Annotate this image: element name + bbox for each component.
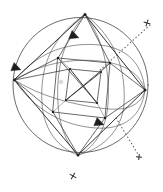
vertex-dot <box>13 79 16 82</box>
parallel-lower <box>15 80 146 109</box>
vertex-dot <box>57 57 59 59</box>
chord-se-core <box>97 103 105 118</box>
dotted-axis-upper <box>100 25 150 70</box>
interior-dot <box>59 80 63 84</box>
vertex-dot <box>69 68 71 70</box>
vertex-dot <box>104 117 106 119</box>
chord-ne-sw-long <box>66 63 110 100</box>
chord-nw-se-long <box>58 58 97 103</box>
figure-root: Spherical geometric construction <box>0 0 163 192</box>
outer-circle <box>13 18 148 153</box>
arrow-marker-upper-icon <box>69 31 81 42</box>
vertex-dot <box>77 154 80 157</box>
chord-sw-core <box>53 100 66 112</box>
chord-top-ne <box>85 15 110 64</box>
cross-mark-bottom-right-icon <box>136 154 143 161</box>
chord-right-se <box>105 90 145 118</box>
chord-left-sw <box>15 80 54 112</box>
vertex-dot <box>84 13 87 16</box>
chord-left-core-nw <box>15 69 71 80</box>
vertex-dot <box>52 111 54 113</box>
cross-mark-bottom-center-icon <box>68 171 78 181</box>
vertex-dot-group <box>13 13 146 157</box>
meridian-outer-left <box>42 15 85 156</box>
vertex-dot <box>65 99 67 101</box>
sphere-diagram <box>0 0 163 192</box>
vertex-dot <box>100 71 102 73</box>
chord-left-nw <box>15 58 59 80</box>
chord-right-ne <box>110 63 145 90</box>
parallel-arc-group <box>15 44 146 128</box>
vertex-dot <box>144 89 147 92</box>
vertex-dot <box>96 102 98 104</box>
cross-mark-top-right-icon <box>143 19 152 28</box>
